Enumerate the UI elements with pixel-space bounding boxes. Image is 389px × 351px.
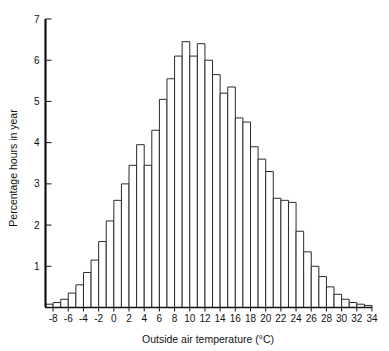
histogram-bar [228,87,236,308]
histogram-bar [175,56,183,307]
x-tick-label: 6 [157,313,163,324]
x-axis-tick-labels: -8-6-4-20246810121416182022242628303234 [49,313,378,324]
histogram-bar [304,252,312,308]
x-tick-label: 0 [111,313,117,324]
histogram-bar [137,145,145,308]
y-tick-label: 3 [34,178,40,189]
histogram-bar [251,147,259,308]
y-tick-label: 1 [34,261,40,272]
histogram-bar [288,202,296,307]
histogram-bar [152,130,160,307]
x-tick-label: 14 [215,313,227,324]
x-tick-label: 12 [199,313,211,324]
histogram-bar [235,118,243,308]
x-axis-title: Outside air temperature (°C) [142,333,274,345]
x-tick-label: -6 [64,313,73,324]
y-axis-title: Percentage hours in year [7,109,19,227]
x-tick-label: 22 [275,313,287,324]
histogram-bar [114,200,122,307]
x-tick-label: 30 [336,313,348,324]
histogram-bar [83,272,91,307]
x-tick-label: -8 [49,313,58,324]
y-tick-label: 7 [34,14,40,25]
histogram-bar [266,171,274,307]
histogram-figure: 1234567 -8-6-4-2024681012141618202224262… [0,0,389,351]
x-tick-label: -2 [94,313,103,324]
chart-canvas: 1234567 -8-6-4-2024681012141618202224262… [0,0,389,351]
histogram-bar [334,294,342,307]
x-tick-label: 20 [260,313,272,324]
histogram-bar [258,159,266,307]
y-tick-label: 6 [34,55,40,66]
x-tick-label: 18 [245,313,257,324]
x-tick-label: 2 [126,313,132,324]
histogram-bar [144,165,152,307]
histogram-bar [167,79,175,308]
histogram-bar [159,99,167,307]
histogram-bar [243,122,251,307]
x-tick-label: 16 [230,313,242,324]
histogram-bar [190,56,198,307]
histogram-bar [61,299,69,307]
x-tick-label: 4 [141,313,147,324]
y-axis-tick-labels: 1234567 [34,14,40,272]
histogram-bar [121,184,129,308]
x-tick-label: 28 [321,313,333,324]
histogram-bar [220,93,228,307]
x-tick-label: 10 [184,313,196,324]
y-tick-label: 4 [34,137,40,148]
histogram-bar [91,260,99,307]
bar-series [46,42,373,308]
x-tick-label: 8 [172,313,178,324]
histogram-bar [281,200,289,307]
y-tick-label: 2 [34,220,40,231]
histogram-bar [319,277,327,308]
y-tick-label: 5 [34,96,40,107]
histogram-bar [76,285,84,308]
x-tick-label: 34 [366,313,378,324]
histogram-bar [99,242,107,308]
histogram-bar [296,231,304,307]
histogram-bar [182,42,190,308]
x-tick-label: -4 [79,313,88,324]
histogram-bar [311,266,319,307]
histogram-bar [205,60,213,307]
x-tick-label: 26 [306,313,318,324]
histogram-bar [273,198,281,307]
histogram-bar [129,165,137,307]
histogram-bar [106,221,114,308]
histogram-bar [342,299,350,307]
x-tick-label: 24 [291,313,303,324]
histogram-bar [213,75,221,308]
histogram-bar [197,44,205,308]
histogram-bar [68,293,76,307]
histogram-bar [326,287,334,308]
x-tick-label: 32 [351,313,363,324]
